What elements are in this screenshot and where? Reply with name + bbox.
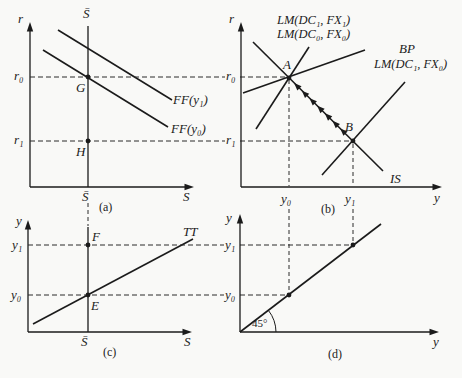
point-b-label: B	[345, 120, 353, 133]
point-e-dot	[86, 293, 91, 298]
panel-c-yaxis-arrow-icon	[25, 220, 31, 230]
tt-curve	[33, 239, 193, 324]
ff-y0-curve	[43, 50, 168, 127]
panel-b-xaxis-label: y	[434, 191, 440, 204]
point-f-dot	[86, 243, 91, 248]
panel-a-yaxis-arrow-icon	[27, 22, 33, 32]
point-a-label: A	[283, 58, 291, 71]
point-h-label: H	[76, 145, 85, 158]
bp-curve	[243, 50, 365, 93]
panel-d-y0-dot	[287, 293, 292, 298]
panel-d-tag: (d)	[328, 348, 342, 360]
panel-c-tag: (c)	[103, 346, 116, 358]
45-degree-arc	[269, 311, 277, 333]
panel-d-xaxis-label: y	[433, 335, 439, 348]
lm-dc0-fx0-label: LM(DC₀, FX₀)	[277, 28, 350, 41]
panel-b-y0-tick-label: y₀	[281, 192, 291, 205]
panel-a-axes	[30, 30, 188, 187]
panel-d-y1-tick-label: y₁	[225, 238, 235, 251]
panel-d-y0-tick-label: y₀	[225, 288, 235, 301]
panel-a-tag: (a)	[99, 201, 112, 213]
45-degree-label: 45°	[252, 318, 267, 329]
tt-label: TT	[183, 225, 197, 238]
panel-d-axes	[240, 222, 432, 332]
four-panel-economics-diagram: r S̄ r₀ r₁ G H FF(y₁) FF(y₀) S̄ S (a) r …	[0, 0, 462, 378]
point-e-label: E	[91, 299, 99, 312]
panel-a-yaxis-label: r	[18, 12, 23, 25]
point-g-dot	[86, 75, 91, 80]
panel-d-y1-dot	[351, 243, 356, 248]
panel-b-tag: (b)	[321, 203, 335, 215]
panel-a-sbar-axis-label: S̄	[82, 190, 89, 203]
point-h-dot	[86, 139, 91, 144]
panel-a-r1-tick-label: r₁	[14, 133, 24, 146]
point-f-label: F	[92, 230, 100, 243]
is-label: IS	[390, 172, 401, 185]
point-b-dot	[351, 139, 356, 144]
panel-b-r1-tick-label: r₁	[226, 133, 236, 146]
panel-b-yaxis-arrow-icon	[238, 22, 244, 32]
panel-a-xaxis-label: S	[183, 190, 190, 203]
panel-b-yaxis-label: r	[229, 12, 234, 25]
ff-y1-label: FF(y₁)	[173, 93, 208, 106]
45-degree-line	[240, 224, 381, 332]
point-a-dot	[287, 76, 292, 81]
panel-c-sbar-axis-label: S̄	[81, 335, 88, 348]
panel-a-r0-tick-label: r₀	[14, 69, 24, 82]
bp-label: BP	[399, 42, 415, 55]
panel-c-y1-tick-label: y₁	[12, 238, 22, 251]
panel-b-r0-tick-label: r₀	[226, 69, 236, 82]
panel-d-yaxis-arrow-icon	[237, 214, 243, 224]
panel-b-y1-tick-label: y₁	[345, 192, 355, 205]
lm-dc1-fx1-label: LM(DC₁, FX₁)	[277, 14, 350, 27]
panel-d-yaxis-label: y	[226, 211, 232, 224]
lm-dc1-fx0-label: LM(DC₁, FX₀)	[374, 58, 447, 71]
panel-c-yaxis-label: y	[16, 214, 22, 227]
panel-c-xaxis-label: S	[184, 335, 191, 348]
point-g-label: G	[76, 81, 85, 94]
panel-c-axes	[28, 228, 185, 332]
lm1-curve	[322, 82, 405, 175]
panel-c-y0-tick-label: y₀	[11, 288, 21, 301]
panel-a-sbar-top-label: S̄	[83, 7, 90, 20]
ff-y0-label: FF(y₀)	[171, 122, 206, 135]
